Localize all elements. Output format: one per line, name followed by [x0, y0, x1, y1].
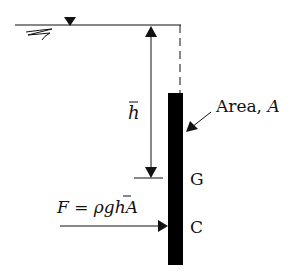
hydrostatic-diagram: h Area, A G C F = ρghA	[0, 0, 302, 280]
force-equation-label: F = ρghA	[56, 197, 138, 217]
submerged-plate	[168, 93, 183, 265]
area-pointer-line	[192, 112, 211, 127]
depth-arrow-up-icon	[145, 26, 157, 37]
center-of-pressure-label: C	[190, 217, 203, 237]
force-arrowhead-icon	[158, 220, 168, 232]
depth-arrow-down-icon	[145, 167, 157, 178]
depth-label: h	[128, 102, 140, 123]
area-label: Area, A	[215, 96, 280, 116]
centroid-label: G	[190, 169, 204, 189]
water-squiggle-icon	[26, 29, 52, 40]
area-pointer-arrowhead-icon	[186, 121, 198, 132]
